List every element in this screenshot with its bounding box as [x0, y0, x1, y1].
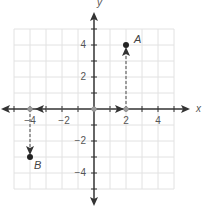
- y-tick-label: 2: [80, 71, 86, 82]
- x-tick-label: −2: [58, 115, 70, 126]
- origin-point: [91, 106, 96, 111]
- point-a-label: A: [133, 33, 141, 45]
- x-tick-label: 2: [123, 115, 129, 126]
- y-axis-label: y: [96, 0, 103, 8]
- x-axis: x −4 −2 2 4: [1, 103, 202, 126]
- y-tick-label: −4: [75, 167, 87, 178]
- x-axis-point-2: [123, 106, 128, 111]
- coordinate-plane: x −4 −2 2 4 y 4 2 −2 −4: [0, 0, 206, 208]
- point-b-label: B: [34, 159, 41, 171]
- y-tick-label: 4: [80, 39, 86, 50]
- y-tick-label: −2: [75, 135, 87, 146]
- y-axis: y 4 2 −2 −4: [75, 0, 103, 206]
- x-tick-label: 4: [155, 115, 161, 126]
- x-axis-label: x: [195, 103, 202, 114]
- x-axis-point-neg4: [27, 106, 32, 111]
